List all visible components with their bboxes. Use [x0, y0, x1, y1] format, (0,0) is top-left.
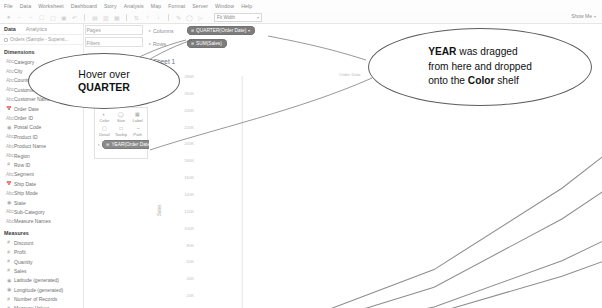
- field-region[interactable]: AbcRegion: [0, 151, 83, 160]
- menu-item-dashboard[interactable]: Dashboard: [71, 3, 97, 9]
- field-ship-mode[interactable]: AbcShip Mode: [0, 188, 83, 197]
- data-source-item[interactable]: Orders (Sample - Superst...: [0, 35, 83, 45]
- new-worksheet-icon[interactable]: ▤: [91, 14, 98, 21]
- field-discount[interactable]: #Discount: [0, 238, 83, 247]
- field-label: Measure Names: [14, 218, 51, 224]
- marks-path-button[interactable]: ∼Path: [129, 124, 146, 138]
- marks-button-label: Color: [99, 118, 109, 123]
- field-longitude[interactable]: ◉Longitude (generated): [0, 285, 83, 294]
- marks-button-label: Path: [133, 132, 142, 137]
- marks-detail-button[interactable]: ▢Detail: [96, 124, 113, 138]
- field-label: City: [14, 68, 23, 74]
- chevron-down-icon[interactable]: ▾: [248, 28, 250, 33]
- marks-label-button[interactable]: ▦Label: [129, 110, 146, 124]
- label-icon: ▦: [135, 112, 140, 117]
- forward-arrow-icon[interactable]: →: [27, 14, 34, 21]
- menu-item-format[interactable]: Format: [168, 3, 185, 9]
- highlight-icon[interactable]: ✎: [175, 14, 182, 21]
- chart-line-series[interactable]: [306, 199, 602, 308]
- plus-icon[interactable]: ⊞: [191, 41, 194, 46]
- swap-rows-cols-icon[interactable]: ⇅: [133, 14, 140, 21]
- sort-ascending-icon[interactable]: ↑: [144, 14, 151, 21]
- menu-item-file[interactable]: File: [4, 3, 13, 9]
- field-product-id[interactable]: AbcProduct ID: [0, 132, 83, 141]
- tableau-window: File Data Worksheet Dashboard Story Anal…: [0, 0, 602, 308]
- rows-shelf[interactable]: ▸ Rows ⊞ SUM(Sales): [149, 37, 227, 50]
- y-axis-tick: 160K: [184, 175, 194, 180]
- field-measure-names[interactable]: AbcMeasure Names: [0, 217, 83, 226]
- field-profit[interactable]: #Profit: [0, 247, 83, 256]
- menu-item-data[interactable]: Data: [20, 3, 31, 9]
- marks-tooltip-button[interactable]: □Tooltip: [113, 124, 130, 138]
- field-label: Longitude (generated): [14, 287, 63, 293]
- chevron-right-icon: ▸: [149, 41, 151, 46]
- columns-shelf[interactable]: ▸ Columns ⊞ QUARTER(Order Date) ▾: [149, 24, 255, 37]
- data-pane-tabs: Data Analytics: [0, 24, 83, 35]
- show-me-button[interactable]: Show Me ▾: [571, 13, 596, 19]
- new-data-source-icon[interactable]: ▢: [49, 14, 56, 21]
- chart-line-series[interactable]: [306, 230, 602, 308]
- back-arrow-icon[interactable]: ←: [16, 14, 23, 21]
- field-ship-date[interactable]: 📅Ship Date: [0, 179, 83, 188]
- field-latitude[interactable]: ◉Latitude (generated): [0, 276, 83, 285]
- tableau-logo-icon[interactable]: ●: [5, 14, 12, 21]
- field-label: Ship Date: [14, 181, 36, 187]
- abc-icon: Abc: [6, 209, 11, 214]
- columns-shelf-label: ▸ Columns: [149, 28, 187, 34]
- field-segment[interactable]: AbcSegment: [0, 170, 83, 179]
- chart-line-series[interactable]: [306, 89, 602, 308]
- callout-year-line3: onto the Color shelf: [428, 74, 532, 89]
- fit-dropdown[interactable]: Fit Width ▾: [214, 13, 262, 22]
- menu-item-window[interactable]: Window: [215, 3, 234, 9]
- connect-icon[interactable]: ▣: [60, 14, 67, 21]
- presentation-mode-icon[interactable]: ▷: [197, 14, 204, 21]
- field-sales[interactable]: #Sales: [0, 266, 83, 275]
- abc-icon: Abc: [6, 97, 11, 102]
- marks-card: ◐Color ◯Size ▦Label ▢Detail □Tooltip ∼Pa…: [94, 107, 148, 159]
- sort-descending-icon[interactable]: ↓: [155, 14, 162, 21]
- field-row-id[interactable]: #Row ID: [0, 160, 83, 169]
- field-quantity[interactable]: #Quantity: [0, 257, 83, 266]
- field-sub-category[interactable]: AbcSub-Category: [0, 207, 83, 216]
- y-axis-tick: 40K: [187, 276, 194, 281]
- marks-color-button[interactable]: ◐Color: [96, 110, 113, 124]
- menu-item-story[interactable]: Story: [104, 3, 117, 9]
- plus-icon[interactable]: ⊞: [106, 142, 109, 147]
- toolbar-divider-2: [126, 14, 127, 21]
- field-number-of-records[interactable]: #Number of Records: [0, 294, 83, 303]
- clear-sheet-icon[interactable]: ▦: [113, 14, 120, 21]
- chart-line-series[interactable]: [306, 133, 602, 308]
- abc-icon: Abc: [6, 191, 11, 196]
- tab-data[interactable]: Data: [4, 26, 16, 32]
- menu-item-help[interactable]: Help: [241, 3, 252, 9]
- abc-icon: Abc: [6, 144, 11, 149]
- field-measure-values[interactable]: #Measure Values: [0, 304, 83, 308]
- tab-analytics[interactable]: Analytics: [26, 26, 48, 32]
- pill-sum-sales[interactable]: ⊞ SUM(Sales): [187, 39, 227, 48]
- y-axis-tick: 120K: [184, 208, 194, 213]
- marks-button-label: Size: [117, 118, 125, 123]
- menu-item-map[interactable]: Map: [151, 3, 161, 9]
- path-icon: ∼: [136, 126, 140, 131]
- callout-hover-quarter: Hover over QUARTER: [28, 53, 180, 109]
- measures-list: #Discount #Profit #Quantity #Sales ◉Lati…: [0, 238, 83, 308]
- pill-quarter-order-date[interactable]: ⊞ QUARTER(Order Date) ▾: [187, 26, 255, 35]
- y-axis-tick: 80K: [187, 242, 194, 247]
- marks-size-button[interactable]: ◯Size: [113, 110, 130, 124]
- save-icon[interactable]: ☐: [38, 14, 45, 21]
- chart-plot-area[interactable]: 280K260K240K220K200K180K160K140K120K100K…: [197, 76, 589, 308]
- y-axis-tick: 220K: [184, 124, 194, 129]
- measures-header: Measures: [0, 226, 83, 238]
- field-product-name[interactable]: AbcProduct Name: [0, 142, 83, 151]
- group-icon[interactable]: ◯: [186, 14, 193, 21]
- menu-item-analysis[interactable]: Analysis: [124, 3, 144, 9]
- menu-item-server[interactable]: Server: [192, 3, 208, 9]
- field-order-id[interactable]: AbcOrder ID: [0, 113, 83, 122]
- undo-icon[interactable]: ↶: [71, 14, 78, 21]
- field-state[interactable]: ◉State: [0, 198, 83, 207]
- field-postal-code[interactable]: ◉Postal Code: [0, 123, 83, 132]
- chart-axis-lines: [242, 76, 602, 308]
- plus-icon[interactable]: ⊞: [191, 28, 194, 33]
- menu-item-worksheet[interactable]: Worksheet: [38, 3, 64, 9]
- duplicate-sheet-icon[interactable]: ▥: [102, 14, 109, 21]
